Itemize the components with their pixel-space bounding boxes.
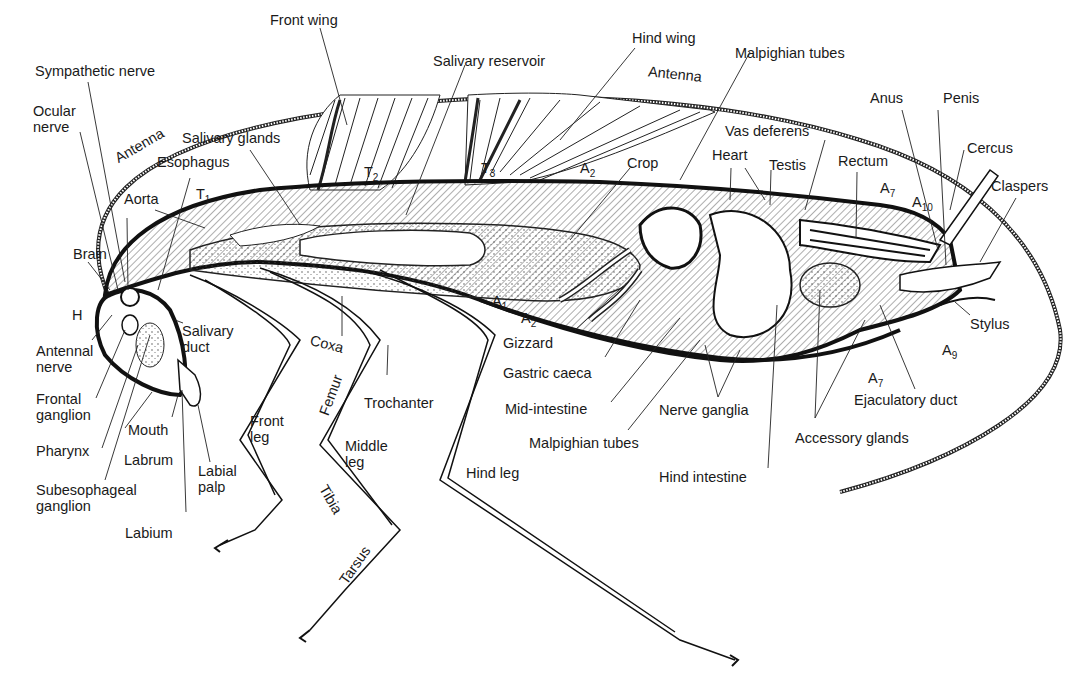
label-frontal-ganglion: Frontal ganglion (36, 391, 91, 423)
a2-top-sub: 2 (590, 168, 596, 179)
labial-palp (178, 360, 200, 406)
label-salivary-duct-line2: duct (182, 339, 209, 355)
label-frontal-ganglion-line1: Frontal (36, 391, 81, 407)
label-salivary-glands: Salivary glands (182, 130, 280, 146)
t3-text: T (481, 160, 490, 176)
label-esophagus: Esophagus (157, 154, 230, 170)
label-gizzard: Gizzard (503, 335, 553, 351)
label-labial-palp-line2: palp (198, 479, 225, 495)
a10-text: A (912, 194, 922, 210)
label-penis: Penis (943, 90, 979, 106)
a2-bottom-sub: 2 (531, 318, 537, 329)
label-mid-intestine: Mid-intestine (505, 401, 587, 417)
label-rectum: Rectum (838, 153, 888, 169)
label-subesophageal-line2: ganglion (36, 498, 91, 514)
label-antennal-nerve-line2: nerve (36, 359, 72, 375)
brain (121, 288, 139, 306)
label-heart: Heart (712, 147, 747, 163)
label-labial-palp-line1: Labial (198, 463, 237, 479)
label-aorta: Aorta (124, 191, 159, 207)
label-a2-top: A2 (580, 160, 595, 182)
label-accessory-glands: Accessory glands (795, 430, 909, 446)
label-subesophageal-ganglion: Subesophageal ganglion (36, 482, 137, 514)
label-a2-bottom: A2 (521, 310, 536, 332)
label-a7-top: A7 (880, 180, 895, 202)
label-malpighian-tubes-top: Malpighian tubes (735, 45, 845, 61)
t1-text: T (196, 186, 205, 202)
label-gastric-caeca: Gastric caeca (503, 365, 592, 381)
a7-bottom-sub: 7 (878, 378, 884, 389)
a7-top-sub: 7 (890, 188, 896, 199)
label-testis: Testis (769, 157, 806, 173)
label-middle-leg-line1: Middle (345, 438, 388, 454)
label-ocular-nerve: Ocular nerve (33, 103, 76, 135)
label-t1: T1 (196, 186, 210, 208)
label-nerve-ganglia: Nerve ganglia (659, 402, 748, 418)
t2-text: T (364, 164, 373, 180)
label-salivary-reservoir: Salivary reservoir (433, 53, 545, 69)
label-t2: T2 (364, 164, 378, 186)
a2-top-text: A (580, 160, 590, 176)
label-brain: Brain (73, 246, 107, 262)
label-front-leg: Front leg (250, 413, 284, 445)
label-labial-palp: Labial palp (198, 463, 237, 495)
label-subesophageal-line1: Subesophageal (36, 482, 137, 498)
t2-sub: 2 (373, 172, 379, 183)
a9-text: A (942, 342, 952, 358)
t1-sub: 1 (205, 194, 211, 205)
label-salivary-duct-line1: Salivary (182, 323, 234, 339)
a1-sub: 1 (502, 301, 508, 312)
label-vas-deferens: Vas deferens (725, 123, 809, 139)
label-a7-bottom: A7 (868, 370, 883, 392)
label-salivary-duct: Salivary duct (182, 323, 234, 355)
label-crop: Crop (627, 155, 658, 171)
a2-bottom-text: A (521, 310, 531, 326)
label-a1: A1 (492, 293, 507, 315)
label-hind-leg: Hind leg (466, 465, 519, 481)
label-malpighian-tubes-bottom: Malpighian tubes (529, 435, 639, 451)
label-labrum: Labrum (124, 452, 173, 468)
label-antennal-nerve: Antennal nerve (36, 343, 93, 375)
label-cercus: Cercus (967, 140, 1013, 156)
label-front-leg-line1: Front (250, 413, 284, 429)
label-hind-wing: Hind wing (632, 30, 696, 46)
label-t3: T3 (481, 160, 495, 182)
label-mouth: Mouth (128, 422, 168, 438)
label-a9: A9 (942, 342, 957, 364)
a1-text: A (492, 293, 502, 309)
label-trochanter: Trochanter (364, 395, 434, 411)
a7-top-text: A (880, 180, 890, 196)
label-front-leg-line2: leg (250, 429, 269, 445)
label-pharynx: Pharynx (36, 443, 89, 459)
a10-sub: 10 (922, 202, 933, 213)
label-middle-leg: Middle leg (345, 438, 388, 470)
label-sympathetic-nerve: Sympathetic nerve (35, 63, 155, 79)
label-anus: Anus (870, 90, 903, 106)
label-ejaculatory-duct: Ejaculatory duct (854, 392, 957, 408)
label-labium: Labium (125, 525, 173, 541)
label-front-wing: Front wing (270, 12, 338, 28)
label-ocular-nerve-line2: nerve (33, 119, 69, 135)
accessory-glands (800, 263, 860, 307)
a9-sub: 9 (952, 350, 958, 361)
label-antennal-nerve-line1: Antennal (36, 343, 93, 359)
label-stylus: Stylus (970, 316, 1010, 332)
t3-sub: 3 (490, 168, 496, 179)
label-frontal-ganglion-line2: ganglion (36, 407, 91, 423)
label-claspers: Claspers (991, 178, 1048, 194)
label-h: H (72, 307, 82, 323)
label-middle-leg-line2: leg (345, 454, 364, 470)
label-a10: A10 (912, 194, 933, 216)
label-hind-intestine: Hind intestine (659, 469, 747, 485)
label-ocular-nerve-line1: Ocular (33, 103, 76, 119)
a7-bottom-text: A (868, 370, 878, 386)
